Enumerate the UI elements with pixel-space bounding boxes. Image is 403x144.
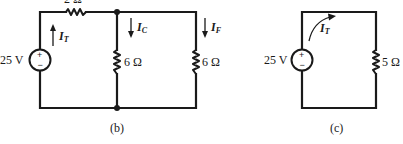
source-plus-sign: +	[299, 50, 304, 60]
arrow-head-down-icon	[128, 31, 134, 38]
current-label-ic: IC	[136, 20, 148, 35]
resistor-5ohm	[373, 50, 379, 74]
source-minus-sign: −	[38, 60, 43, 70]
resistor-6ohm-f	[193, 50, 199, 74]
arrow-head-down-icon	[202, 31, 208, 38]
current-label-it-b: IT	[58, 29, 70, 44]
current-label-it-c: IT	[319, 21, 331, 36]
resistor-2ohm-label: 2 Ω	[64, 0, 82, 6]
resistor-6ohm-f-label: 6 Ω	[202, 55, 220, 69]
source-voltage-label-b: 25 V	[0, 53, 24, 67]
arrow-head-up-icon	[50, 24, 56, 31]
source-voltage-label-c: 25 V	[264, 53, 288, 67]
caption-b: (b)	[110, 121, 124, 135]
resistor-5ohm-label: 5 Ω	[382, 55, 400, 69]
resistor-2ohm	[66, 9, 86, 15]
junction-bottom	[114, 105, 120, 111]
source-minus-sign: −	[300, 60, 305, 70]
junction-top	[114, 9, 120, 15]
circuit-c: + − 25 V IT 5 Ω (c)	[264, 12, 400, 135]
resistor-6ohm-c	[114, 50, 120, 74]
caption-c: (c)	[330, 121, 343, 135]
current-label-if: IF	[210, 20, 222, 35]
resistor-6ohm-c-label: 6 Ω	[124, 55, 142, 69]
arrow-head-curved-icon	[328, 14, 336, 21]
circuit-figure: 2 Ω + − 25 V IT 6 Ω IC 6 Ω IF	[0, 0, 403, 144]
source-plus-sign: +	[37, 50, 42, 60]
circuit-b: 2 Ω + − 25 V IT 6 Ω IC 6 Ω IF	[0, 0, 222, 135]
